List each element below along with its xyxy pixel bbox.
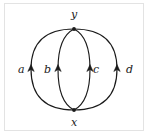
edge-label-d: d [126,64,133,75]
edge-a-path [31,29,74,110]
vertex-label-y: y [71,9,77,20]
edge-label-c: c [93,64,99,75]
edge-label-b: b [44,64,51,75]
figure-container: y x a b c d [0,0,148,135]
edge-label-a: a [18,64,25,75]
vertex-y-dot [72,27,76,31]
vertex-x-dot [72,108,76,112]
vertex-label-x: x [71,117,77,128]
